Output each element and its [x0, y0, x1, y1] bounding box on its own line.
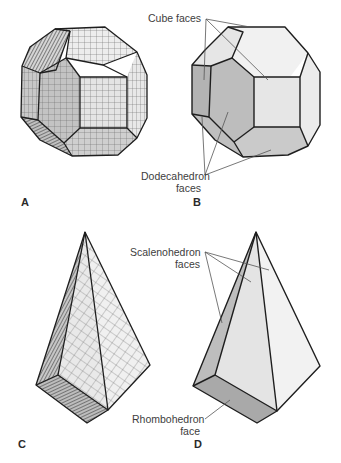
panel-letter-d: D: [194, 438, 202, 450]
crystal-figure: [0, 0, 341, 463]
polyhedron-a: [21, 27, 147, 156]
label-rhombohedron-face: Rhombohedron face: [132, 413, 200, 437]
label-dodecahedron-faces: Dodecahedron faces: [141, 170, 201, 194]
label-scalenohedron-line2: faces: [130, 258, 200, 270]
polyhedron-b: [192, 27, 320, 157]
polyhedron-d: [193, 232, 320, 423]
panel-letter-a: A: [21, 196, 29, 208]
label-rhombohedron-line1: Rhombohedron: [132, 413, 200, 425]
panel-letter-b: B: [193, 196, 201, 208]
label-dodecahedron-line2: faces: [141, 182, 201, 194]
label-scalenohedron-line1: Scalenohedron: [130, 246, 200, 258]
label-cube-faces: Cube faces: [148, 12, 201, 24]
label-rhombohedron-line2: face: [132, 425, 200, 437]
panel-letter-c: C: [18, 438, 26, 450]
label-scalenohedron-faces: Scalenohedron faces: [130, 246, 200, 270]
label-dodecahedron-line1: Dodecahedron: [141, 170, 201, 182]
